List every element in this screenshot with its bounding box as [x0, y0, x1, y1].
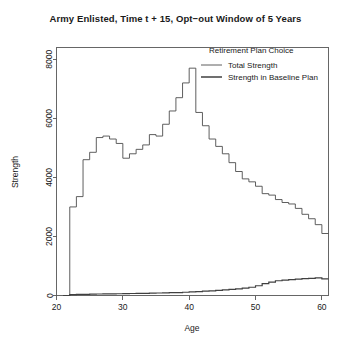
plot-area: 02000400060008000 2030405060 Age Strengt… — [0, 0, 351, 347]
series-line-strength-in-baseline-plan — [63, 278, 328, 296]
x-tick-label: 60 — [317, 302, 327, 312]
y-tick-label: 4000 — [45, 168, 55, 187]
plot-frame — [57, 48, 329, 296]
x-tick-label: 20 — [52, 302, 62, 312]
y-tick-label: 0 — [45, 293, 55, 298]
y-tick-label: 8000 — [45, 50, 55, 69]
y-tick-label: 2000 — [45, 227, 55, 246]
y-tick-label: 6000 — [45, 109, 55, 128]
series-line-total-strength — [63, 68, 328, 295]
chart-legend: Retirement Plan Choice Total Strength St… — [201, 46, 318, 82]
y-axis-title: Strength — [10, 156, 20, 188]
chart-figure: Army Enlisted, Time t + 15, Opt−out Wind… — [0, 0, 351, 347]
data-series-group — [63, 68, 328, 295]
legend-label-baseline-plan: Strength in Baseline Plan — [228, 73, 318, 82]
y-axis-ticks: 02000400060008000 — [45, 50, 57, 298]
x-axis-title: Age — [184, 323, 199, 333]
legend-title: Retirement Plan Choice — [209, 46, 294, 55]
x-axis-ticks: 2030405060 — [52, 296, 327, 312]
x-tick-label: 40 — [184, 302, 194, 312]
x-tick-label: 30 — [118, 302, 128, 312]
x-tick-label: 50 — [251, 302, 261, 312]
legend-label-total-strength: Total Strength — [228, 61, 277, 70]
